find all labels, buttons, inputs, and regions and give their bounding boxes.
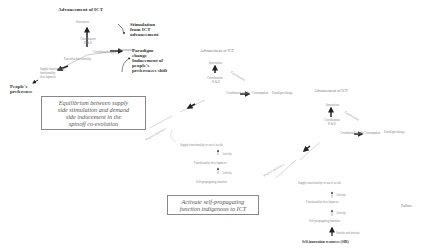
d1-node-ext-func: Extended functionality <box>64 57 91 61</box>
d3-node-consumption: Consumption <box>364 131 380 135</box>
d1-node-coord-supply: Coordinated supply <box>93 50 117 54</box>
d3-chain-sir: Self-innovation resources (SIR) <box>302 240 349 244</box>
d2-chain-0: Supply functionality to users' needs <box>180 143 223 147</box>
d3-node-rd: R & D <box>328 122 336 126</box>
d1-node-innovation: Innovation <box>76 20 89 24</box>
d3-node-coord-supply: Coordinated supply <box>340 131 364 135</box>
d2-node-coord-supply: Coordinated supply <box>226 91 250 95</box>
d1-equilibrium-box: Equilibrium between supply side stimulat… <box>41 96 146 130</box>
d1-title: Advancement of ICT <box>58 7 103 12</box>
d2-chain-arrow-0: Activity <box>222 152 232 156</box>
d1-inducement-annotation: Inducement of people's preferences shift <box>132 58 167 73</box>
d3-title: Advancement of ICT <box>314 88 348 93</box>
d1-paradigm-annotation: Paradigm change <box>132 48 153 58</box>
d1-node-supply-func: Supply functionality, functionality deve… <box>40 67 70 79</box>
d2-chain-arrow-1: Activity <box>222 171 232 175</box>
d3-paradigm: Paradigm change <box>384 130 405 134</box>
d3-node-innovation: Innovation <box>326 103 339 107</box>
d1-node-rd: R & D <box>84 41 92 45</box>
d3-chain-0: Supply functionality to users' needs <box>298 181 341 185</box>
d2-paradigm: Paradigm change <box>272 91 293 95</box>
d3-failure-label: Failure <box>401 203 412 208</box>
d2-title: Advancement of ICT <box>200 48 234 53</box>
d3-chain-arrow-1: Activity <box>336 211 346 215</box>
d3-chain-arrow-0: Activity <box>336 193 346 197</box>
d1-stimulation-annotation: Stimulation from ICT advancement <box>130 22 158 37</box>
d3-chain-1: Functionality development <box>306 200 338 204</box>
d1-people-preference: People's preference <box>10 84 33 94</box>
d3-chain-arrow-2: Sustain and activate <box>336 231 360 235</box>
d2-node-innovation: Innovation <box>209 61 222 65</box>
d2-activate-box: Activate self-propagating function indig… <box>167 195 259 215</box>
d2-node-consumption: Consumption <box>252 91 268 95</box>
d2-node-rd: R & D <box>212 80 220 84</box>
d3-chain-2: Self-propagating function <box>309 219 340 223</box>
d2-chain-2: Self-propagating function <box>196 180 227 184</box>
d2-chain-1: Functionality development <box>194 161 226 165</box>
